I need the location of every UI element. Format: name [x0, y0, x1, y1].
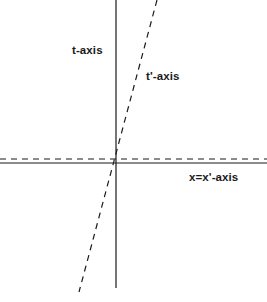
spacetime-diagram: t-axis t'-axis x=x'-axis	[0, 0, 267, 302]
diagram-background	[0, 0, 267, 302]
t-axis-label: t-axis	[72, 44, 103, 56]
diagram-canvas	[0, 0, 267, 302]
x-equals-x-prime-axis-label: x=x'-axis	[189, 171, 238, 183]
t-prime-axis-label: t'-axis	[146, 70, 179, 82]
